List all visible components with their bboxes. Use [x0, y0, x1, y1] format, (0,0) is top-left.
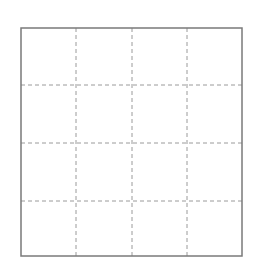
interior-dashed-lines	[21, 28, 242, 256]
grid-diagram	[0, 0, 261, 261]
